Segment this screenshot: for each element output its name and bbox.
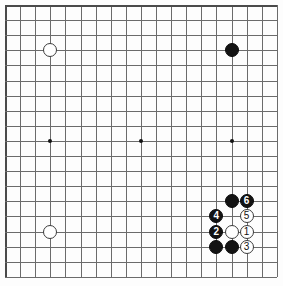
stone-black-move-4[interactable]: 4 xyxy=(209,209,223,223)
stone-black-upper-right[interactable] xyxy=(225,43,239,57)
star-point-right xyxy=(230,139,234,143)
stone-white-move-1[interactable]: 1 xyxy=(240,225,254,239)
grid-line-horizontal-18 xyxy=(5,277,277,278)
stone-move-number: 5 xyxy=(244,211,250,221)
stone-white-lower-left[interactable] xyxy=(43,225,57,239)
grid-line-horizontal-4 xyxy=(5,65,277,66)
star-point-left xyxy=(48,139,52,143)
stone-black-move-2[interactable]: 2 xyxy=(209,225,223,239)
grid-line-horizontal-2 xyxy=(5,35,277,36)
grid-line-horizontal-1 xyxy=(5,20,277,21)
stone-white-plain-center[interactable] xyxy=(225,225,239,239)
grid-line-horizontal-8 xyxy=(5,126,277,127)
grid-line-horizontal-7 xyxy=(5,111,277,112)
stone-black-move-6[interactable]: 6 xyxy=(240,194,254,208)
grid-line-horizontal-6 xyxy=(5,96,277,97)
grid-line-horizontal-12 xyxy=(5,186,277,187)
stone-white-move-3[interactable]: 3 xyxy=(240,240,254,254)
grid-line-horizontal-14 xyxy=(5,216,277,217)
grid-line-horizontal-11 xyxy=(5,171,277,172)
grid-line-horizontal-0 xyxy=(5,5,277,7)
stone-move-number: 6 xyxy=(244,196,250,206)
stone-black-bottom-left[interactable] xyxy=(209,240,223,254)
stone-move-number: 4 xyxy=(214,211,220,221)
grid-line-vertical-18 xyxy=(277,5,278,277)
stone-move-number: 1 xyxy=(244,227,250,237)
go-board-diagram[interactable]: 654213 xyxy=(0,0,283,286)
stone-white-move-5[interactable]: 5 xyxy=(240,209,254,223)
stone-black-bottom-right[interactable] xyxy=(225,240,239,254)
stone-move-number: 2 xyxy=(214,227,220,237)
stone-move-number: 3 xyxy=(244,242,250,252)
grid-line-horizontal-5 xyxy=(5,81,277,82)
grid-line-horizontal-10 xyxy=(5,156,277,157)
stone-white-upper-left[interactable] xyxy=(43,43,57,57)
stone-black-corner-upper[interactable] xyxy=(225,194,239,208)
grid-line-horizontal-17 xyxy=(5,262,277,263)
star-point-center xyxy=(139,139,143,143)
